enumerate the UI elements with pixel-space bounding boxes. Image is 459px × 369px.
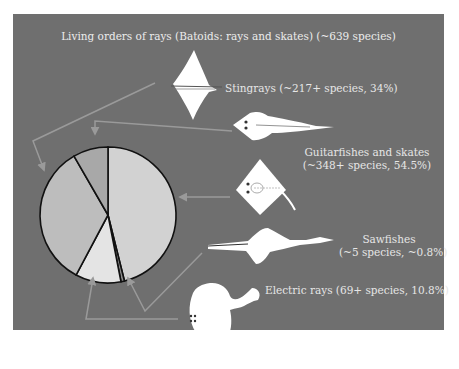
electric-ray-silhouette-icon (190, 283, 260, 342)
arrow-guitarfishes (95, 121, 232, 134)
sawfish-silhouette-icon (208, 228, 334, 264)
pie-chart (40, 147, 176, 283)
diagram-art (0, 0, 459, 369)
skate-silhouette-icon (236, 159, 295, 215)
guitarfish-silhouette-icon (233, 112, 334, 140)
stingray-silhouette-icon (171, 50, 222, 120)
